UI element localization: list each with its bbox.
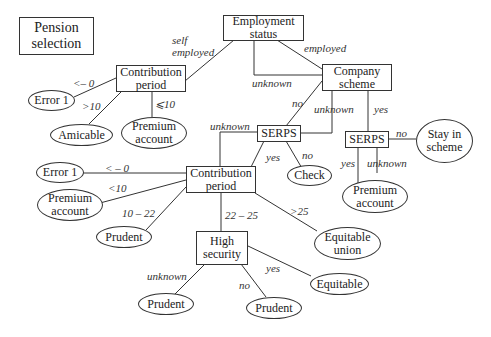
edge-label-unknown-employment: unknown <box>252 77 292 89</box>
edge-label-unknown-serps1: unknown <box>210 120 250 132</box>
node-stay-in-scheme: Stay in scheme <box>416 119 473 163</box>
edge-label-no-serps1: no <box>302 149 313 161</box>
node-high-security: High security <box>196 231 248 265</box>
node-check: Check <box>287 165 332 186</box>
diagram-title: Pension selection <box>19 17 94 55</box>
edge-label-gt25: >25 <box>290 205 308 217</box>
node-premium-account-3: Premium account <box>37 189 103 221</box>
node-serps-1: SERPS <box>257 125 301 142</box>
node-prudent-2: Prudent <box>138 293 194 315</box>
edge-label-no-company: no <box>292 97 303 109</box>
edge-label-yes-security: yes <box>266 262 280 274</box>
edge-label-unknown-serps2: unknown <box>367 157 407 169</box>
node-prudent-1: Prudent <box>96 226 152 248</box>
edge-label-lt0-a: <– 0 <box>73 77 94 89</box>
node-employment-status: Employment status <box>223 15 304 41</box>
node-equitable: Equitable <box>310 273 369 295</box>
node-error-1-b: Error 1 <box>36 162 84 183</box>
node-premium-account-1: Premium account <box>121 117 187 149</box>
edge-label-yes-company: yes <box>374 103 388 115</box>
edge-label-22-25: 22 – 25 <box>225 209 258 221</box>
node-contribution-period-2: Contribution period <box>186 166 256 193</box>
edge-label-employed: employed <box>304 42 346 54</box>
edge-label-yes-serps2: yes <box>341 157 355 169</box>
edge-label-le10: ⩽10 <box>155 98 175 110</box>
edge-label-yes-serps1: yes <box>266 151 280 163</box>
node-amicable: Amicable <box>50 124 113 146</box>
edge-label-gt10: >10 <box>82 100 100 112</box>
edge-label-self-employed: self employed <box>172 34 214 58</box>
edge-label-unknown-security: unknown <box>147 270 187 282</box>
node-prudent-3: Prudent <box>246 297 302 319</box>
node-equitable-union: Equitable union <box>314 227 381 260</box>
edge-label-lt10: <10 <box>108 182 126 194</box>
node-serps-2: SERPS <box>345 131 389 148</box>
edge-label-no-security: no <box>239 279 250 291</box>
node-contribution-period-1: Contribution period <box>116 65 186 92</box>
edge-label-lt0-b: < – 0 <box>105 162 129 174</box>
node-company-scheme: Company scheme <box>322 64 392 91</box>
node-premium-account-2: Premium account <box>342 180 408 213</box>
edge-label-10-22: 10 – 22 <box>122 207 155 219</box>
edge-label-unknown-company: unknown <box>314 103 354 115</box>
node-error-1-a: Error 1 <box>28 90 75 111</box>
edge-label-no-serps2: no <box>396 127 407 139</box>
